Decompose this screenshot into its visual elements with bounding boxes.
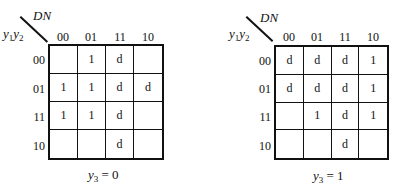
kmap-cell: d [304,47,332,75]
kmap-cell: d [106,74,134,102]
kmap-cell: 1 [50,74,78,102]
column-header: 10 [359,31,387,43]
kmap-cell [134,102,162,130]
column-header: 11 [331,31,359,43]
kmap-cell: d [332,130,360,158]
kmap-cell: d [332,103,360,131]
kmap-grid: d d d 1 d d d 1 1 d 1 d [274,45,389,160]
column-variable-label: DN [260,11,278,24]
kmap-cell: 1 [359,75,387,103]
kmap-cell [78,130,106,158]
kmap-grid: 1 d 1 1 d d 1 1 d d [48,44,164,160]
kmap-cell [276,103,304,131]
kmap-cell: d [134,74,162,102]
kmap-cell: d [106,130,134,158]
column-header: 11 [106,31,134,43]
kmap-cell: d [106,46,134,74]
row-header: 00 [21,54,45,66]
column-header: 01 [77,31,105,43]
row-header: 10 [21,140,45,152]
kmap-cell [134,46,162,74]
column-variable-label: DN [33,9,51,22]
kmap-cell [50,46,78,74]
column-header: 00 [275,31,303,43]
kmap-cell [304,130,332,158]
kmap-cell: d [106,102,134,130]
kmap-cell: 1 [78,102,106,130]
row-variable-label: y1y2 [229,27,250,45]
kmap-cell: 1 [50,102,78,130]
kmap-cell: d [332,47,360,75]
row-header: 11 [21,111,45,123]
kmap-cell [50,130,78,158]
kmap-cell [359,130,387,158]
kmap-cell [134,130,162,158]
row-header: 10 [247,140,271,152]
column-header: 00 [49,31,77,43]
row-variable-label: y1y2 [3,27,24,45]
kmap-cell: 1 [304,103,332,131]
kmap-cell: 1 [78,74,106,102]
row-header: 00 [247,55,271,67]
kmap-caption: y3 = 0 [88,167,119,184]
kmap-y3-1: DN y1y2 00 01 11 10 00 01 11 10 d d d 1 … [200,0,395,192]
row-header: 11 [247,111,271,123]
kmap-cell: 1 [78,46,106,74]
kmap-caption: y3 = 1 [313,168,344,185]
kmap-cell: 1 [359,103,387,131]
kmap-cell: d [304,75,332,103]
kmap-cell [276,130,304,158]
column-header: 10 [134,31,162,43]
column-header: 01 [303,31,331,43]
kmap-cell: d [332,75,360,103]
kmap-y3-0: DN y1y2 00 01 11 10 00 01 11 10 1 d 1 1 … [0,0,195,192]
row-header: 01 [247,83,271,95]
row-header: 01 [21,83,45,95]
kmap-cell: 1 [359,47,387,75]
kmap-cell: d [276,75,304,103]
kmap-cell: d [276,47,304,75]
